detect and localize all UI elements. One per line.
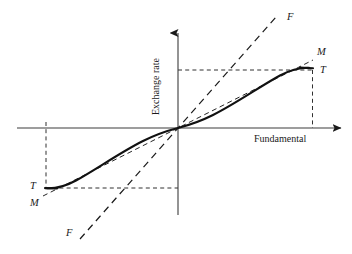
exchange-rate-target-zone-figure: Fundamental Exchange rate F F M M T T bbox=[0, 0, 352, 254]
label-t-lower: T bbox=[30, 181, 36, 192]
label-m-lower: M bbox=[30, 198, 39, 209]
x-axis-label: Fundamental bbox=[254, 134, 306, 144]
guide-lines bbox=[45, 70, 313, 188]
label-t-upper: T bbox=[320, 65, 326, 76]
y-axis-label: Exchange rate bbox=[151, 58, 161, 115]
axes bbox=[17, 33, 341, 215]
figure-canvas bbox=[0, 0, 352, 254]
label-f-upper: F bbox=[287, 12, 293, 23]
label-f-lower: F bbox=[66, 228, 72, 239]
label-m-upper: M bbox=[317, 47, 326, 58]
upper-band-cap bbox=[300, 68, 313, 69]
